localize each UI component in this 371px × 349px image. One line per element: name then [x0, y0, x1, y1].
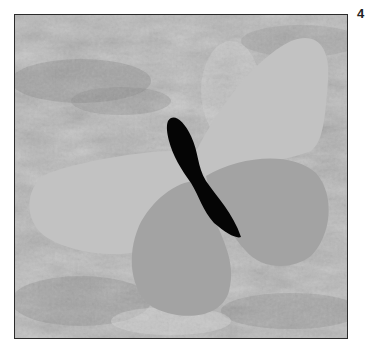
butterfly-illustration: [15, 15, 348, 339]
illustration-frame: [14, 14, 348, 339]
figure-number: 4: [357, 6, 364, 21]
